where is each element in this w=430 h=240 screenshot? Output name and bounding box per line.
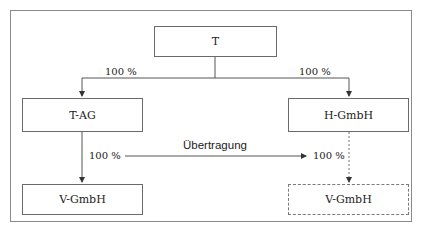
node-t-ag-label: T-AG [69,109,95,122]
edge-label-t-tag: 100 % [105,66,137,77]
edge-label-tag-vgmbh: 100 % [89,150,121,161]
node-h-gmbh-label: H-GmbH [324,109,373,122]
node-v-gmbh-left: V-GmbH [22,184,143,215]
edge-label-hgmbh-vgmbh: 100 % [313,150,345,161]
node-t: T [154,26,277,57]
node-v-gmbh-left-label: V-GmbH [59,193,106,206]
transfer-label: Übertragung [183,139,247,151]
node-h-gmbh: H-GmbH [288,98,409,132]
node-v-gmbh-right: V-GmbH [288,184,409,215]
node-t-label: T [212,35,219,48]
edge-label-t-hgmbh: 100 % [299,66,331,77]
node-v-gmbh-right-label: V-GmbH [325,193,372,206]
node-t-ag: T-AG [22,98,143,132]
